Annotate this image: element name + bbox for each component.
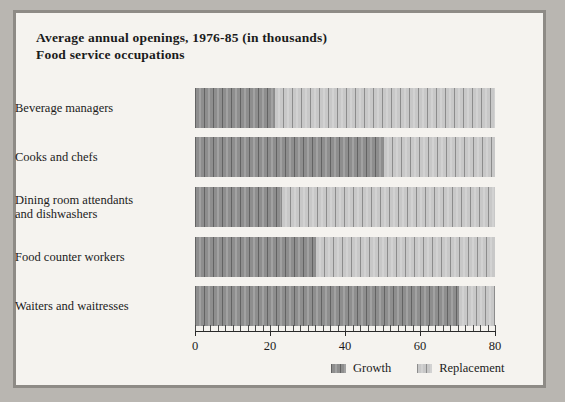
bar-row: Waiters and waitresses — [195, 286, 495, 326]
stacked-bar — [195, 286, 495, 326]
axis-minor-tick — [360, 325, 361, 331]
axis-tick-label: 20 — [264, 339, 277, 354]
legend-swatch-replacement — [417, 364, 432, 373]
chart-frame: Average annual openings, 1976-85 (in tho… — [13, 10, 546, 388]
axis-minor-tick — [300, 325, 301, 331]
axis-minor-tick — [488, 325, 489, 331]
axis-tick — [420, 331, 421, 336]
chart-title-line2: Food service occupations — [36, 46, 327, 63]
axis-minor-tick — [315, 325, 316, 331]
axis-minor-tick — [375, 325, 376, 331]
axis-tick — [495, 331, 496, 336]
axis-minor-tick — [413, 325, 414, 331]
axis-minor-tick — [428, 325, 429, 331]
axis-tick — [195, 331, 196, 336]
axis-minor-tick — [278, 325, 279, 331]
bar-segment-replacement — [274, 88, 495, 128]
bar-segment-replacement — [383, 137, 496, 177]
x-axis: 020406080 — [195, 331, 495, 332]
legend-item-growth: Growth — [331, 361, 391, 376]
bar-row: Dining room attendants and dishwashers — [195, 187, 495, 227]
category-label: Beverage managers — [15, 101, 195, 115]
axis-minor-tick — [293, 325, 294, 331]
axis-tick-label: 80 — [489, 339, 502, 354]
legend-label-growth: Growth — [353, 361, 391, 376]
chart-legend: Growth Replacement — [331, 361, 504, 376]
axis-minor-tick — [443, 325, 444, 331]
axis-minor-tick — [323, 325, 324, 331]
axis-minor-tick — [398, 325, 399, 331]
axis-minor-tick — [435, 325, 436, 331]
bar-segment-replacement — [315, 237, 495, 277]
axis-minor-tick — [465, 325, 466, 331]
axis-minor-tick — [218, 325, 219, 331]
axis-minor-tick — [450, 325, 451, 331]
chart-canvas: Average annual openings, 1976-85 (in tho… — [16, 13, 543, 385]
axis-minor-tick — [248, 325, 249, 331]
axis-minor-tick — [458, 325, 459, 331]
axis-tick — [345, 331, 346, 336]
axis-minor-tick — [263, 325, 264, 331]
axis-tick-label: 0 — [192, 339, 198, 354]
stacked-bar — [195, 187, 495, 227]
axis-minor-tick — [368, 325, 369, 331]
axis-minor-tick — [308, 325, 309, 331]
axis-minor-tick — [203, 325, 204, 331]
axis-minor-tick — [353, 325, 354, 331]
chart-title-line1: Average annual openings, 1976-85 (in tho… — [36, 29, 327, 46]
stacked-bar — [195, 137, 495, 177]
category-label: Dining room attendants and dishwashers — [15, 193, 195, 221]
axis-minor-tick — [240, 325, 241, 331]
axis-minor-tick — [233, 325, 234, 331]
axis-minor-tick — [383, 325, 384, 331]
bar-row: Cooks and chefs — [195, 137, 495, 177]
stacked-bar — [195, 237, 495, 277]
bar-segment-replacement — [281, 187, 495, 227]
axis-tick — [270, 331, 271, 336]
legend-label-replacement: Replacement — [439, 361, 504, 376]
bar-row: Food counter workers — [195, 237, 495, 277]
axis-minor-tick — [405, 325, 406, 331]
bar-segment-growth — [195, 237, 315, 277]
axis-tick-label: 40 — [339, 339, 352, 354]
bar-segment-growth — [195, 88, 274, 128]
legend-item-replacement: Replacement — [417, 361, 504, 376]
axis-minor-tick — [473, 325, 474, 331]
bar-segment-growth — [195, 286, 458, 326]
axis-tick-label: 60 — [414, 339, 427, 354]
category-label: Cooks and chefs — [15, 150, 195, 164]
axis-minor-tick — [210, 325, 211, 331]
axis-minor-tick — [390, 325, 391, 331]
axis-minor-tick — [285, 325, 286, 331]
bar-segment-growth — [195, 187, 281, 227]
bar-segment-growth — [195, 137, 383, 177]
axis-minor-tick — [330, 325, 331, 331]
stacked-bar — [195, 88, 495, 128]
category-label: Food counter workers — [15, 250, 195, 264]
axis-minor-tick — [255, 325, 256, 331]
category-label: Waiters and waitresses — [15, 299, 195, 313]
axis-minor-tick — [225, 325, 226, 331]
bar-segment-replacement — [458, 286, 496, 326]
plot-area: Beverage managersCooks and chefsDining r… — [195, 83, 495, 331]
bar-row: Beverage managers — [195, 88, 495, 128]
axis-minor-tick — [338, 325, 339, 331]
legend-swatch-growth — [331, 364, 346, 373]
chart-title: Average annual openings, 1976-85 (in tho… — [36, 29, 327, 63]
axis-minor-tick — [480, 325, 481, 331]
